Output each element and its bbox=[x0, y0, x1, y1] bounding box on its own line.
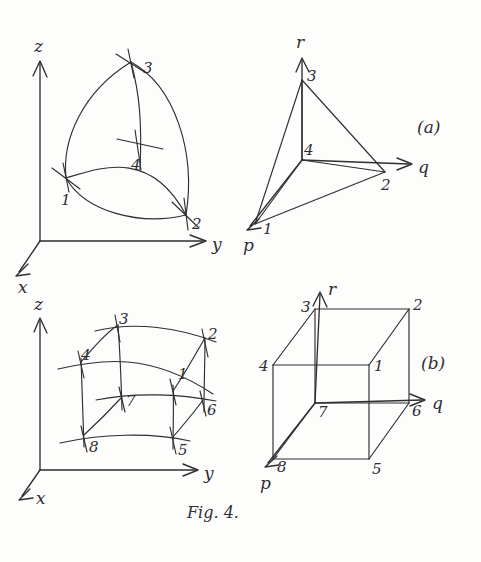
axis-label-y-bottom-left: y bbox=[203, 463, 214, 483]
figure-caption: Fig. 4. bbox=[186, 503, 239, 522]
y-axis-top-left bbox=[40, 235, 206, 247]
axis-label-x-top-left: x bbox=[18, 277, 28, 297]
edge-4-3-cube bbox=[273, 309, 315, 365]
node-label-6-hexahedron: 6 bbox=[207, 401, 217, 419]
node-ticks-curved-tetrahedron bbox=[52, 49, 198, 230]
axis-label-p-cube: p bbox=[260, 473, 271, 493]
node-label-5-hexahedron: 5 bbox=[178, 441, 188, 459]
figure-page: z y x bbox=[0, 0, 481, 562]
node-ticks-hexahedron bbox=[78, 315, 208, 454]
interior-curve-1-4-2 bbox=[66, 167, 186, 215]
node-label-4-cube: 4 bbox=[258, 357, 269, 375]
node-label-6-cube: 6 bbox=[412, 402, 422, 420]
node-label-3-curved-tetrahedron: 3 bbox=[143, 59, 153, 77]
z-axis-bottom-left bbox=[34, 318, 47, 470]
axis-label-p-tetrahedron: p bbox=[243, 235, 254, 255]
panel-label-b: (b) bbox=[421, 353, 445, 373]
curve-5-6-depth-hexahedron bbox=[173, 400, 203, 437]
curved-edge-1-2 bbox=[66, 178, 186, 219]
node-label-5-cube: 5 bbox=[372, 460, 382, 478]
axis-label-y-top-left: y bbox=[211, 234, 222, 254]
axis-label-q-tetrahedron: q bbox=[418, 157, 429, 177]
node-label-8-cube: 8 bbox=[277, 458, 287, 476]
node-label-2-curved-tetrahedron: 2 bbox=[191, 215, 202, 233]
axis-label-r-cube: r bbox=[328, 279, 337, 299]
y-axis-bottom-left bbox=[40, 464, 198, 476]
curve-7-6-hexahedron bbox=[96, 395, 216, 401]
curved-tetrahedron-group: z y x bbox=[16, 36, 222, 297]
node-label-4-tetrahedron: 4 bbox=[303, 141, 314, 159]
curve-2-6-hexahedron bbox=[204, 338, 205, 412]
node-label-1-cube: 1 bbox=[374, 357, 384, 375]
axis-label-z-bottom-left: z bbox=[33, 294, 44, 314]
node-label-1-tetrahedron: 1 bbox=[263, 220, 273, 238]
edge-3-1-tetrahedron bbox=[255, 80, 302, 224]
axis-label-z-top-left: z bbox=[33, 36, 44, 56]
figure-canvas: z y x bbox=[0, 0, 481, 562]
node-label-3-cube: 3 bbox=[301, 298, 311, 316]
node-label-2-hexahedron: 2 bbox=[207, 325, 218, 343]
node-label-1-curved-tetrahedron: 1 bbox=[61, 191, 71, 209]
node-label-4-curved-tetrahedron: 4 bbox=[130, 156, 141, 174]
node-label-8-hexahedron: 8 bbox=[89, 438, 99, 456]
z-axis-top-left bbox=[33, 61, 47, 241]
reference-cube-group: r q p bbox=[258, 279, 443, 493]
edge-5-6-cube bbox=[369, 403, 409, 459]
node-label-7-hexahedron: 7 bbox=[126, 392, 136, 410]
axis-label-x-bottom-left: x bbox=[36, 488, 46, 508]
node-label-1-hexahedron: 1 bbox=[178, 365, 188, 383]
node-label-2-cube: 2 bbox=[412, 296, 423, 314]
node-label-7-cube: 7 bbox=[318, 403, 328, 421]
straight-tetrahedron-group: r q p 1 2 3 4 bbox=[243, 32, 429, 255]
curve-8-5-hexahedron bbox=[60, 435, 190, 443]
edge-3-2-tetrahedron bbox=[302, 80, 385, 172]
node-label-3-hexahedron: 3 bbox=[119, 310, 129, 328]
node-label-3-tetrahedron: 3 bbox=[307, 67, 317, 85]
curve-8-7-depth-hexahedron bbox=[84, 397, 122, 435]
edge-8-7-cube bbox=[273, 403, 315, 459]
axis-label-q-cube: q bbox=[432, 393, 443, 413]
axis-label-r-tetrahedron: r bbox=[296, 32, 305, 52]
node-label-4-hexahedron: 4 bbox=[80, 346, 91, 364]
interior-curve-3-4 bbox=[131, 62, 141, 170]
x-axis-top-left bbox=[16, 241, 40, 276]
curved-edge-3-2 bbox=[131, 62, 188, 215]
curved-edge-1-3 bbox=[66, 62, 131, 178]
node-label-2-tetrahedron: 2 bbox=[380, 176, 391, 194]
panel-label-a: (a) bbox=[417, 117, 440, 137]
curved-hexahedron-group: z y x bbox=[19, 294, 218, 508]
